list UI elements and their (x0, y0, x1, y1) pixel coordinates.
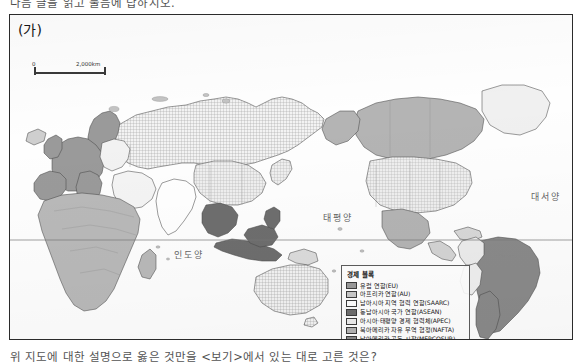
legend-item-saarc: 남아시아 지역 협력 연합(SAARC) (346, 299, 465, 307)
legend-swatch-eu (346, 282, 357, 289)
legend-item-asean: 동남아시아 국가 연합(ASEAN) (346, 308, 465, 316)
region-centralamerica (428, 241, 456, 261)
legend-label-eu: 유럽 연합(EU) (360, 282, 398, 290)
figure-box: (가) (9, 14, 573, 340)
legend-item-apec: 아시아·태평양 경제 협력체(APEC) (346, 317, 465, 325)
region-africa (38, 193, 140, 311)
legend-item-nafta: 북아메리카 자유 무역 협정(NAFTA) (346, 326, 465, 334)
scale-max-label: 2,000km (76, 61, 100, 67)
legend-swatch-asean (346, 309, 357, 316)
scale-tick-left (34, 67, 36, 75)
ocean-label-atlantic: 대서양 (531, 190, 561, 203)
region-tasmania (304, 317, 318, 327)
legend-swatch-mercosur (346, 336, 357, 340)
region-greenland (482, 85, 550, 135)
legend-label-mercosur: 남아메리카 공동 시장(MERCOSUR) (360, 335, 455, 340)
region-australia (254, 265, 328, 315)
legend-item-eu: 유럽 연합(EU) (346, 282, 465, 290)
scale-tick-right (104, 67, 106, 75)
legend-item-mercosur: 남아메리카 공동 시장(MERCOSUR) (346, 335, 465, 340)
legend-swatch-nafta (346, 327, 357, 334)
legend-label-asean: 동남아시아 국가 연합(ASEAN) (360, 308, 441, 316)
legend-item-au: 아프리카 연합(AU) (346, 290, 465, 298)
legend-title: 경제 블록 (347, 269, 465, 279)
region-iceland (26, 129, 46, 145)
legend-label-au: 아프리카 연합(AU) (360, 290, 410, 298)
region-saarc-india (156, 179, 196, 235)
scale-bar-line (34, 72, 106, 74)
legend-label-nafta: 북아메리카 자유 무역 협정(NAFTA) (360, 326, 454, 334)
page-bottom-cut-text: 위 지도에 대한 설명으로 옳은 것만을 <보기>에서 있는 대로 고른 것은? (10, 348, 582, 362)
region-canada (354, 97, 484, 161)
legend-swatch-apec (346, 318, 357, 325)
region-asean-mainland (202, 203, 238, 237)
region-usa (366, 157, 472, 213)
scale-bar: 0 2,000km (32, 61, 110, 79)
region-madagascar (138, 249, 156, 279)
region-mexico (382, 209, 430, 249)
region-asean-philippines (264, 207, 280, 229)
page-top-cut-text: 다음 글을 읽고 물음에 답하시오. (10, 0, 582, 8)
region-png (288, 249, 318, 265)
ocean-label-indian: 인도양 (174, 248, 204, 261)
region-alaska (322, 111, 360, 145)
region-eastern-europe (100, 139, 130, 171)
legend-label-apec: 아시아·태평양 경제 협력체(APEC) (360, 317, 451, 325)
legend-swatch-au (346, 291, 357, 298)
legend-swatch-saarc (346, 300, 357, 307)
region-russia (106, 97, 324, 169)
region-japan (270, 159, 292, 185)
map-legend: 경제 블록 유럽 연합(EU) 아프리카 연합(AU) 남아시아 지역 협력 연… (341, 265, 470, 340)
region-china (194, 161, 266, 205)
legend-label-saarc: 남아시아 지역 협력 연합(SAARC) (360, 299, 449, 307)
ocean-label-pacific: 태평양 (323, 211, 353, 224)
